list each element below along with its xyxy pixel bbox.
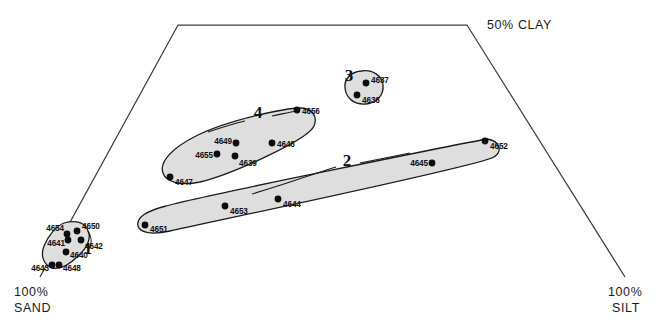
plot-frame xyxy=(40,25,625,277)
data-point-label-4646: 4646 xyxy=(277,140,295,149)
data-point-label-4639: 4639 xyxy=(239,159,257,168)
data-point-label-4651: 4651 xyxy=(150,225,168,234)
cluster-group-4: 4656464946464655463946474 xyxy=(162,103,320,187)
data-point-label-4643: 4643 xyxy=(31,264,49,273)
ternary-diagram-figure: 4654465046414642464046484643146514653464… xyxy=(0,0,661,328)
data-point-4648 xyxy=(56,262,63,269)
data-point-label-4655: 4655 xyxy=(195,151,213,160)
data-point-4644 xyxy=(275,196,282,203)
corner-label-sand-line2: SAND xyxy=(14,301,51,315)
data-point-4655 xyxy=(214,151,221,158)
cluster-number-2: 2 xyxy=(343,151,352,170)
data-point-4639 xyxy=(232,153,239,160)
data-point-label-4636: 4636 xyxy=(362,96,380,105)
data-point-4637 xyxy=(363,80,370,87)
data-point-4645 xyxy=(429,160,436,167)
cluster-number-1: 1 xyxy=(84,239,93,258)
data-point-label-4656: 4656 xyxy=(302,107,320,116)
data-point-4654 xyxy=(64,231,71,238)
data-point-label-4645: 4645 xyxy=(410,159,428,168)
data-point-label-4648: 4648 xyxy=(63,264,81,273)
data-point-label-4654: 4654 xyxy=(46,224,64,233)
cluster-number-4: 4 xyxy=(254,103,263,122)
data-point-4647 xyxy=(167,174,174,181)
data-point-label-4650: 4650 xyxy=(82,222,100,231)
data-point-4650 xyxy=(74,228,81,235)
clusters-layer: 4654465046414642464046484643146514653464… xyxy=(31,66,508,273)
cluster-number-3: 3 xyxy=(345,66,354,85)
corner-label-silt-line2: SILT xyxy=(612,301,640,315)
corner-label-clay: 50% CLAY xyxy=(487,18,552,32)
data-point-4652 xyxy=(482,138,489,145)
corner-label-sand-line1: 100% xyxy=(14,285,48,299)
data-point-4640 xyxy=(63,249,70,256)
data-point-4643 xyxy=(49,262,56,269)
frame-outline xyxy=(40,25,625,277)
cluster-group-1: 46544650464146424640464846431 xyxy=(31,222,103,273)
data-point-4636 xyxy=(354,92,361,99)
data-point-4641 xyxy=(65,237,72,244)
data-point-4653 xyxy=(222,203,229,210)
corner-label-silt-line1: 100% xyxy=(608,285,642,299)
data-point-label-4652: 4652 xyxy=(490,142,508,151)
cluster-group-3: 463746363 xyxy=(345,66,390,105)
data-point-4649 xyxy=(233,140,240,147)
data-point-label-4637: 4637 xyxy=(371,76,389,85)
data-point-4656 xyxy=(294,107,301,114)
diagram-canvas: 4654465046414642464046484643146514653464… xyxy=(0,0,661,328)
data-point-label-4641: 4641 xyxy=(47,239,65,248)
data-point-4646 xyxy=(269,140,276,147)
data-point-label-4644: 4644 xyxy=(283,200,301,209)
data-point-label-4649: 4649 xyxy=(214,137,232,146)
corner-labels: 100% SAND 100% SILT 50% CLAY xyxy=(14,18,642,315)
data-point-label-4653: 4653 xyxy=(230,207,248,216)
data-point-4651 xyxy=(142,222,149,229)
data-point-label-4647: 4647 xyxy=(175,178,193,187)
